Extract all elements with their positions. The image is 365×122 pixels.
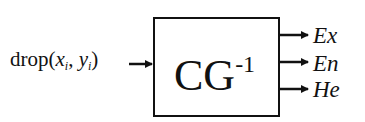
output-en: En [313,52,339,76]
arrows [0,0,365,122]
output-he: He [313,78,340,102]
output-ex: Ex [313,24,337,48]
